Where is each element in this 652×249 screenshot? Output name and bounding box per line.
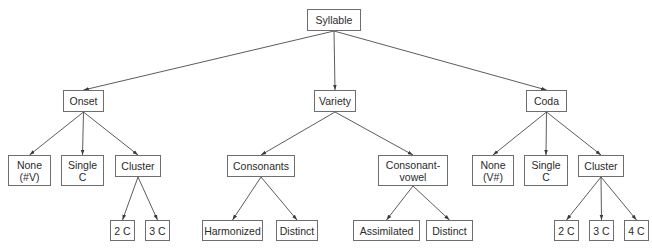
edge-arrow-consonants-to-consonants-distinct [261,177,297,220]
edge-arrow-syllable-to-onset [84,31,335,90]
node-coda-cluster: Cluster [578,155,624,177]
node-syllable: Syllable [307,9,361,31]
node-coda-2c: 2 C [554,220,579,241]
edge-arrow-coda-to-coda-single [546,112,547,155]
node-coda-3c: 3 C [589,220,614,241]
node-onset-2c: 2 C [110,220,135,241]
node-consonants-distinct: Distinct [276,220,318,241]
edge-arrow-coda-cluster-to-coda-2c [567,177,602,220]
edge-arrow-coda-cluster-to-coda-4c [601,177,637,220]
edge-arrow-consonant-vowel-to-cv-distinct [413,186,450,220]
edge-arrow-consonant-vowel-to-assimilated [387,186,414,220]
node-consonant-vowel: Consonant- vowel [378,155,448,186]
node-variety: Variety [314,90,356,112]
node-onset-single: Single C [61,155,104,186]
edge-arrow-coda-to-coda-none [493,112,547,155]
node-coda-single: Single C [524,155,568,186]
node-onset-none: None (#V) [8,155,51,186]
node-onset-cluster: Cluster [115,155,161,177]
edge-layer [0,0,652,249]
syllable-structure-diagram: SyllableOnsetVarietyCodaNone (#V)Single … [0,0,652,249]
node-coda-none: None (V#) [472,155,514,186]
edge-arrow-onset-to-onset-single [83,112,84,155]
node-onset-3c: 3 C [145,220,170,241]
edge-arrow-onset-cluster-to-onset-2c [123,177,139,220]
node-cv-distinct: Distinct [426,220,473,241]
edge-arrow-coda-to-coda-cluster [547,112,602,155]
node-assimilated: Assimilated [353,220,420,241]
edge-arrow-syllable-to-variety [334,31,335,90]
edge-arrow-syllable-to-coda [334,31,547,90]
node-coda: Coda [526,90,567,112]
edge-arrow-variety-to-consonant-vowel [335,112,413,155]
node-harmonized: Harmonized [202,220,263,241]
edge-arrow-onset-to-onset-none [30,112,84,155]
edge-arrow-onset-to-onset-cluster [84,112,139,155]
node-consonants: Consonants [227,155,295,177]
edge-arrow-variety-to-consonants [261,112,335,155]
edge-arrow-consonants-to-harmonized [233,177,262,220]
edge-arrow-coda-cluster-to-coda-3c [601,177,602,220]
node-coda-4c: 4 C [624,220,649,241]
edge-arrow-onset-cluster-to-onset-3c [138,177,158,220]
node-onset: Onset [63,90,104,112]
